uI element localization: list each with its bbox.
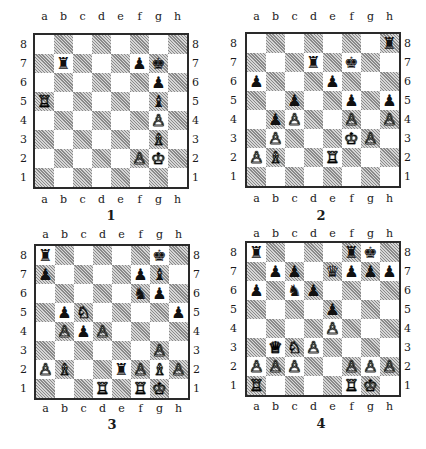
square-f4 bbox=[131, 322, 150, 341]
rank-label-1: 1 bbox=[404, 376, 411, 395]
square-d2 bbox=[304, 357, 323, 376]
file-label-a: a bbox=[247, 10, 266, 23]
square-e2: ♖ bbox=[323, 148, 342, 167]
rank-label-7: 7 bbox=[20, 54, 27, 73]
square-h7 bbox=[168, 54, 187, 73]
white-pawn-icon: ♙ bbox=[344, 357, 358, 376]
rank-label-4: 4 bbox=[404, 319, 411, 338]
square-c2 bbox=[73, 149, 92, 168]
black-pawn-icon: ♟ bbox=[287, 262, 301, 281]
file-label-g: g bbox=[361, 227, 380, 240]
square-c5 bbox=[73, 92, 92, 111]
square-b2: ♙ bbox=[266, 357, 285, 376]
square-g4: ♙ bbox=[149, 111, 168, 130]
square-b7: ♟ bbox=[266, 262, 285, 281]
rank-label-1: 1 bbox=[192, 168, 199, 187]
square-b8 bbox=[266, 243, 285, 262]
black-pawn-icon: ♟ bbox=[152, 284, 166, 303]
square-c6 bbox=[74, 284, 93, 303]
square-g8: ♚ bbox=[361, 243, 380, 262]
square-c1 bbox=[74, 379, 93, 398]
rank-label-7: 7 bbox=[193, 265, 200, 284]
file-label-h: h bbox=[169, 228, 188, 241]
square-d3: ♙ bbox=[304, 338, 323, 357]
file-labels-top: abcdefgh bbox=[36, 228, 188, 241]
square-b5 bbox=[54, 92, 73, 111]
file-label-b: b bbox=[266, 227, 285, 240]
square-c5 bbox=[285, 300, 304, 319]
square-b4: ♙ bbox=[55, 322, 74, 341]
square-f6: ♞ bbox=[131, 284, 150, 303]
square-a6: ♟ bbox=[247, 72, 266, 91]
square-b7 bbox=[55, 265, 74, 284]
square-g2: ♙ bbox=[361, 357, 380, 376]
black-pawn-icon: ♟ bbox=[306, 281, 320, 300]
rank-label-6: 6 bbox=[404, 281, 411, 300]
square-b1 bbox=[54, 168, 73, 187]
square-e6: ♟ bbox=[323, 72, 342, 91]
file-label-h: h bbox=[380, 192, 399, 205]
square-c4: ♙ bbox=[285, 110, 304, 129]
file-label-c: c bbox=[74, 228, 93, 241]
square-b7: ♜ bbox=[54, 54, 73, 73]
square-g4 bbox=[150, 322, 169, 341]
square-h1 bbox=[169, 379, 188, 398]
square-g7: ♟ bbox=[361, 262, 380, 281]
rank-label-5: 5 bbox=[230, 91, 237, 110]
square-h1 bbox=[380, 376, 399, 395]
file-label-e: e bbox=[323, 10, 342, 23]
file-label-d: d bbox=[92, 193, 111, 206]
rank-label-3: 3 bbox=[192, 130, 199, 149]
rank-label-4: 4 bbox=[192, 111, 199, 130]
square-f2: ♙ bbox=[131, 360, 150, 379]
rank-label-2: 2 bbox=[404, 357, 411, 376]
square-b6 bbox=[266, 281, 285, 300]
square-c6 bbox=[73, 73, 92, 92]
square-b8 bbox=[266, 34, 285, 53]
square-g5: ♝ bbox=[149, 92, 168, 111]
square-d3 bbox=[92, 130, 111, 149]
white-king-icon: ♔ bbox=[344, 129, 358, 148]
square-e4 bbox=[112, 322, 131, 341]
square-e1 bbox=[323, 376, 342, 395]
square-h8: ♜ bbox=[380, 34, 399, 53]
rank-label-7: 7 bbox=[230, 53, 237, 72]
square-h7: ♟ bbox=[380, 262, 399, 281]
square-a2: ♙ bbox=[36, 360, 55, 379]
file-label-a: a bbox=[247, 192, 266, 205]
white-pawn-icon: ♙ bbox=[268, 357, 282, 376]
square-c1 bbox=[285, 376, 304, 395]
square-f6 bbox=[130, 73, 149, 92]
rank-label-3: 3 bbox=[404, 338, 411, 357]
square-h5 bbox=[380, 300, 399, 319]
square-e4 bbox=[323, 110, 342, 129]
chess-diagram-3: abcdefgh 87654321 ♜♚♟♟♝♞♟♟♘♟♙♟♙♙♙♗♜♙♗♙♖♖… bbox=[0, 225, 213, 449]
rank-label-8: 8 bbox=[404, 243, 411, 262]
file-label-h: h bbox=[168, 10, 187, 23]
square-h5: ♟ bbox=[169, 303, 188, 322]
square-g1 bbox=[361, 167, 380, 186]
square-f1 bbox=[130, 168, 149, 187]
square-a8: ♜ bbox=[36, 246, 55, 265]
square-e1 bbox=[112, 379, 131, 398]
square-e5: ♟ bbox=[323, 300, 342, 319]
square-d2 bbox=[93, 360, 112, 379]
square-c4 bbox=[285, 319, 304, 338]
square-a4 bbox=[247, 110, 266, 129]
chessboard: ♜♜♚♟♟♛♟♟♟♟♞♟♟♙♕♘♙♙♙♙♙♙♙♖♖♔ bbox=[245, 241, 401, 397]
white-pawn-icon: ♙ bbox=[152, 341, 166, 360]
square-a8: ♜ bbox=[247, 243, 266, 262]
square-a6 bbox=[36, 284, 55, 303]
rank-label-5: 5 bbox=[404, 300, 411, 319]
square-e8 bbox=[112, 246, 131, 265]
square-b4 bbox=[266, 319, 285, 338]
file-label-c: c bbox=[285, 400, 304, 413]
file-label-a: a bbox=[247, 227, 266, 240]
square-d3 bbox=[93, 341, 112, 360]
rank-label-3: 3 bbox=[20, 341, 27, 360]
square-a2: ♙ bbox=[247, 148, 266, 167]
rank-label-2: 2 bbox=[404, 148, 411, 167]
black-pawn-icon: ♟ bbox=[382, 262, 396, 281]
file-label-e: e bbox=[323, 192, 342, 205]
square-d7 bbox=[304, 262, 323, 281]
